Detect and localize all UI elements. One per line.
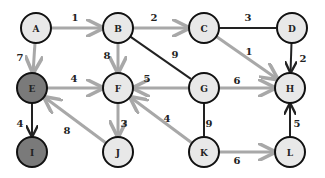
node-a: A <box>21 13 51 43</box>
edge-weight-label: 8 <box>104 50 111 61</box>
node-f: F <box>103 73 133 103</box>
edge-weight-label: 8 <box>64 125 71 136</box>
edge-weight-label: 1 <box>72 12 79 23</box>
node-j: J <box>103 137 133 167</box>
node-e: E <box>17 73 47 103</box>
edge-c-h <box>216 37 277 79</box>
node-l: L <box>275 137 305 167</box>
edge-weight-label: 4 <box>71 73 78 84</box>
edge-b-g <box>130 37 191 79</box>
edge-a-e <box>33 43 35 72</box>
edge-weight-label: 5 <box>144 73 151 84</box>
node-label: L <box>287 148 294 158</box>
node-label: K <box>200 148 209 158</box>
node-label: D <box>288 24 296 34</box>
node-g: G <box>189 73 219 103</box>
edge-k-f <box>131 98 192 143</box>
edge-weight-label: 4 <box>17 118 24 129</box>
node-h: H <box>275 73 305 103</box>
node-i: I <box>17 137 47 167</box>
node-k: K <box>189 137 219 167</box>
edge-weight-label: 6 <box>234 155 241 166</box>
weighted-graph-diagram: 123127894564834965 ABCDEFGHIJKL <box>0 0 325 178</box>
node-d: D <box>277 13 307 43</box>
node-c: C <box>189 13 219 43</box>
edges-layer <box>32 28 292 152</box>
edge-weight-label: 2 <box>300 53 307 64</box>
edge-weight-label: 4 <box>164 113 171 124</box>
edge-weight-label: 5 <box>294 118 301 129</box>
node-label: E <box>29 84 36 94</box>
node-b: B <box>103 13 133 43</box>
node-label: J <box>115 148 120 158</box>
nodes-layer: ABCDEFGHIJKL <box>17 13 307 167</box>
node-label: I <box>30 148 34 158</box>
edge-weight-label: 3 <box>245 12 252 23</box>
edge-weight-label: 9 <box>172 49 179 60</box>
node-label: F <box>115 84 122 94</box>
edge-d-h <box>291 43 292 72</box>
edge-weight-label: 9 <box>206 118 213 129</box>
edge-weight-label: 6 <box>234 75 241 86</box>
edge-weight-label: 7 <box>17 52 24 63</box>
node-label: H <box>286 84 295 94</box>
node-label: A <box>32 24 41 34</box>
node-label: B <box>114 24 122 34</box>
node-label: C <box>200 24 207 34</box>
edge-weight-label: 1 <box>246 46 253 57</box>
node-label: G <box>200 84 208 94</box>
edge-weight-label: 2 <box>151 12 158 23</box>
edge-weight-label: 3 <box>121 118 128 129</box>
edge-j-e <box>45 98 106 143</box>
